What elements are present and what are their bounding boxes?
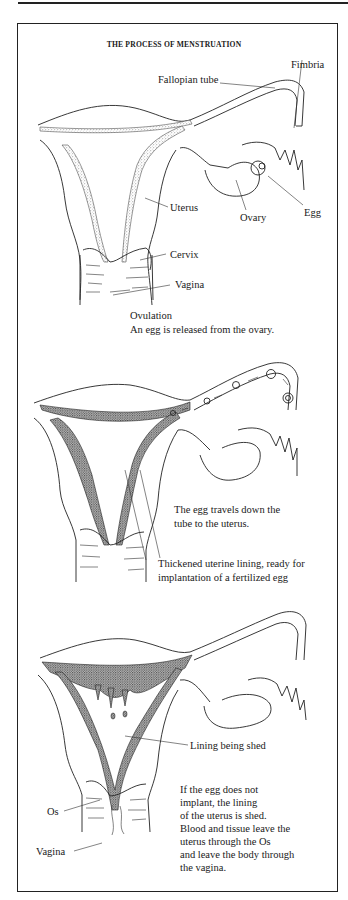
caption-egg-travels-line1: The egg travels down the bbox=[174, 503, 280, 516]
caption-shedding-line-5: uterus through the Os bbox=[180, 835, 271, 848]
caption-shedding-line-1: If the egg does not bbox=[180, 783, 258, 796]
label-thickened-lining-line2: implantation of a fertilized egg bbox=[158, 571, 288, 584]
uterus-egg-travel-drawing bbox=[34, 363, 298, 582]
caption-ovulation-text: An egg is released from the ovary. bbox=[130, 323, 274, 336]
caption-ovulation-heading: Ovulation bbox=[130, 309, 172, 322]
caption-shedding-line-7: the vagina. bbox=[180, 861, 226, 874]
menstruation-illustrations bbox=[0, 0, 348, 900]
label-os: Os bbox=[47, 805, 59, 818]
label-lining-being-shed: Lining being shed bbox=[190, 739, 266, 752]
caption-shedding-line-4: Blood and tissue leave the bbox=[180, 822, 290, 835]
caption-shedding-line-3: of the uterus is shed. bbox=[180, 809, 267, 822]
label-thickened-lining-line1: Thickened uterine lining, ready for bbox=[158, 557, 305, 570]
label-ovary: Ovary bbox=[240, 211, 266, 224]
label-uterus: Uterus bbox=[170, 201, 198, 214]
caption-egg-travels-line2: tube to the uterus. bbox=[174, 517, 249, 530]
uterus-ovulation-drawing bbox=[38, 60, 304, 305]
label-vagina-shed: Vagina bbox=[36, 845, 65, 858]
label-vagina: Vagina bbox=[175, 278, 204, 291]
label-fallopian-tube: Fallopian tube bbox=[158, 73, 218, 86]
caption-shedding-line-2: implant, the lining bbox=[180, 796, 257, 809]
caption-shedding-line-6: and leave the body through bbox=[180, 848, 294, 861]
label-fimbria: Fimbria bbox=[291, 58, 324, 71]
label-cervix: Cervix bbox=[170, 248, 199, 261]
label-egg: Egg bbox=[304, 206, 321, 219]
